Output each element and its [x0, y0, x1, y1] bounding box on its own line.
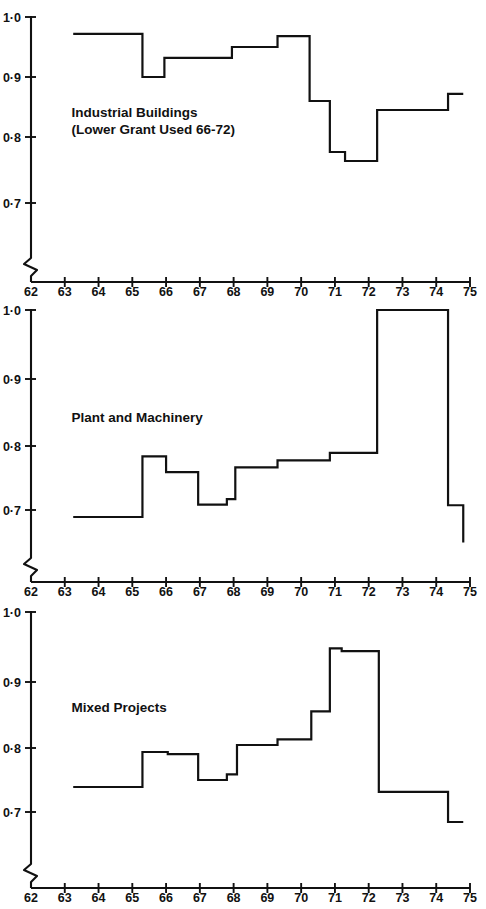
x-tick-label-2-12: 74: [429, 891, 443, 905]
y-tick-label-2-3: 0·7: [3, 806, 21, 820]
x-tick-label-2-4: 66: [159, 891, 173, 905]
x-tick-label-0-1: 63: [58, 285, 72, 299]
chart-svg-1: 1·00·90·80·76263646566676869707172737475…: [0, 300, 486, 600]
x-tick-label-1-2: 64: [92, 585, 106, 599]
panel-title-1: Plant and Machinery: [72, 410, 204, 425]
x-tick-label-2-13: 75: [463, 891, 477, 905]
y-tick-label-0-1: 0·9: [3, 71, 21, 85]
chart-panel-plant-and-machinery: 1·00·90·80·76263646566676869707172737475…: [0, 300, 486, 600]
series-step-line-1: [73, 310, 463, 543]
x-tick-label-1-9: 71: [328, 585, 342, 599]
x-tick-label-1-3: 65: [125, 585, 139, 599]
y-tick-label-2-1: 0·9: [3, 676, 21, 690]
series-step-line-0: [73, 34, 463, 161]
figure-three-stacked-step-charts: 1·00·90·80·76263646566676869707172737475…: [0, 0, 486, 909]
y-tick-label-0-2: 0·8: [3, 131, 21, 145]
chart-panel-industrial-buildings: 1·00·90·80·76263646566676869707172737475…: [0, 0, 486, 300]
chart-panel-mixed-projects: 1·00·90·80·76263646566676869707172737475…: [0, 600, 486, 909]
y-tick-label-1-2: 0·8: [3, 440, 21, 454]
x-tick-label-2-3: 65: [125, 891, 139, 905]
x-tick-label-2-9: 71: [328, 891, 342, 905]
x-tick-label-2-8: 70: [294, 891, 308, 905]
x-tick-label-1-1: 63: [58, 585, 72, 599]
x-tick-label-1-10: 72: [362, 585, 376, 599]
x-tick-label-1-11: 73: [396, 585, 410, 599]
x-tick-label-1-4: 66: [159, 585, 173, 599]
y-tick-label-1-3: 0·7: [3, 504, 21, 518]
x-tick-label-0-5: 67: [193, 285, 207, 299]
y-tick-label-1-0: 1·0: [3, 304, 21, 318]
x-tick-label-0-11: 73: [396, 285, 410, 299]
x-tick-label-0-8: 70: [294, 285, 308, 299]
x-tick-label-1-12: 74: [429, 585, 443, 599]
y-tick-label-1-1: 0·9: [3, 373, 21, 387]
series-step-line-2: [73, 648, 463, 822]
x-tick-label-2-7: 69: [260, 891, 274, 905]
x-tick-label-1-13: 75: [463, 585, 477, 599]
panel-title-0: Industrial Buildings: [72, 105, 198, 120]
y-tick-label-2-0: 1·0: [3, 606, 21, 620]
x-tick-label-0-12: 74: [429, 285, 443, 299]
x-tick-label-2-2: 64: [92, 891, 106, 905]
x-tick-label-2-1: 63: [58, 891, 72, 905]
y-axis-break-icon-1: [24, 558, 37, 576]
y-tick-label-0-3: 0·7: [3, 197, 21, 211]
x-tick-label-0-10: 72: [362, 285, 376, 299]
y-tick-label-0-0: 1·0: [3, 11, 21, 25]
x-tick-label-0-13: 75: [463, 285, 477, 299]
x-tick-label-1-8: 70: [294, 585, 308, 599]
chart-svg-2: 1·00·90·80·76263646566676869707172737475…: [0, 600, 486, 909]
x-tick-label-0-9: 71: [328, 285, 342, 299]
x-tick-label-2-0: 62: [24, 891, 38, 905]
x-tick-label-0-6: 68: [227, 285, 241, 299]
x-tick-label-1-6: 68: [227, 585, 241, 599]
x-tick-label-2-11: 73: [396, 891, 410, 905]
x-tick-label-0-3: 65: [125, 285, 139, 299]
x-tick-label-2-10: 72: [362, 891, 376, 905]
y-axis-break-icon-0: [24, 258, 37, 276]
chart-svg-0: 1·00·90·80·76263646566676869707172737475…: [0, 0, 486, 300]
x-tick-label-2-5: 67: [193, 891, 207, 905]
x-tick-label-1-0: 62: [24, 585, 38, 599]
x-tick-label-0-2: 64: [92, 285, 106, 299]
x-tick-label-2-6: 68: [227, 891, 241, 905]
x-tick-label-1-5: 67: [193, 585, 207, 599]
x-tick-label-0-0: 62: [24, 285, 38, 299]
x-tick-label-0-7: 69: [260, 285, 274, 299]
x-tick-label-1-7: 69: [260, 585, 274, 599]
y-tick-label-2-2: 0·8: [3, 742, 21, 756]
panel-subtitle-0: (Lower Grant Used 66-72): [72, 122, 236, 137]
y-axis-break-icon-2: [24, 864, 37, 882]
panel-title-2: Mixed Projects: [72, 700, 167, 715]
x-tick-label-0-4: 66: [159, 285, 173, 299]
